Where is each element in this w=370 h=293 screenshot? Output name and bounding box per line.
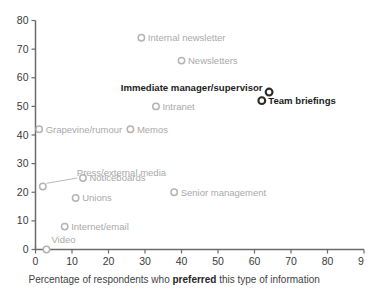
data-point-label: Memos <box>137 124 168 135</box>
data-point-marker <box>178 57 184 63</box>
svg-text:50: 50 <box>17 100 29 112</box>
svg-text:80: 80 <box>322 255 334 267</box>
data-point-marker <box>171 189 177 195</box>
data-point-marker <box>72 195 78 201</box>
data-points: Internal newsletterNewslettersIntranetGr… <box>36 32 336 253</box>
data-point-marker <box>153 103 159 109</box>
svg-text:9: 9 <box>358 255 364 267</box>
svg-text:20: 20 <box>103 255 115 267</box>
svg-text:10: 10 <box>66 255 78 267</box>
data-point-label: Internet/email <box>71 221 129 232</box>
x-axis-ticks: 010203040506070809 <box>33 246 365 267</box>
data-point-label: Intranet <box>162 101 195 112</box>
y-axis-ticks: 01020304050607080 <box>17 14 36 255</box>
data-point-label: Grapevine/rumour <box>46 124 123 135</box>
svg-text:50: 50 <box>212 255 224 267</box>
data-point-marker <box>138 34 144 40</box>
data-point-label: Newsletters <box>188 55 238 66</box>
svg-text:10: 10 <box>17 214 29 226</box>
data-point-label: Press/external media <box>77 167 167 178</box>
svg-text:Percentage of respondents who: Percentage of respondents who preferred … <box>29 274 320 285</box>
data-point-label: Video <box>51 234 75 245</box>
svg-text:40: 40 <box>176 255 188 267</box>
svg-text:80: 80 <box>17 14 29 26</box>
svg-text:0: 0 <box>33 255 39 267</box>
data-point-marker <box>127 126 133 132</box>
data-point-marker <box>61 223 67 229</box>
data-point-marker <box>43 246 49 252</box>
leader-lines <box>47 178 78 183</box>
data-point-label: Senior management <box>181 187 267 198</box>
svg-text:30: 30 <box>17 157 29 169</box>
data-point-marker <box>40 183 46 189</box>
data-point-marker <box>36 126 42 132</box>
x-axis-title: Percentage of respondents who preferred … <box>29 274 320 285</box>
chart-canvas: 01020304050607080 010203040506070809 Int… <box>0 0 370 293</box>
svg-text:60: 60 <box>249 255 261 267</box>
data-point-marker <box>258 97 265 104</box>
label-leader-line <box>47 178 78 183</box>
data-point-label: Unions <box>82 192 112 203</box>
svg-text:30: 30 <box>139 255 151 267</box>
scatter-chart: 01020304050607080 010203040506070809 Int… <box>0 0 370 293</box>
svg-text:40: 40 <box>17 129 29 141</box>
data-point-label: Team briefings <box>268 95 336 106</box>
data-point-label: Immediate manager/supervisor <box>121 82 263 93</box>
svg-text:70: 70 <box>285 255 297 267</box>
svg-text:0: 0 <box>23 243 29 255</box>
svg-text:60: 60 <box>17 71 29 83</box>
svg-text:20: 20 <box>17 186 29 198</box>
data-point-label: Internal newsletter <box>148 32 226 43</box>
svg-text:70: 70 <box>17 43 29 55</box>
